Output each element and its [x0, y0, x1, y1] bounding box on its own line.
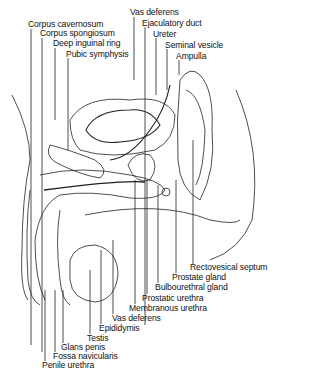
- label-prostatic-urethra: Prostatic urethra: [142, 294, 203, 303]
- label-vas-deferens-top: Vas deferens: [130, 8, 179, 17]
- label-corpus-spongiosum: Corpus spongiosum: [40, 29, 115, 38]
- label-pubic-symphysis: Pubic symphysis: [66, 50, 129, 59]
- label-ejaculatory-duct: Ejaculatory duct: [142, 19, 202, 28]
- label-penile-urethra: Penile urethra: [42, 361, 94, 368]
- label-seminal-vesicle: Seminal vesicle: [165, 41, 223, 50]
- label-deep-inguinal-ring: Deep inguinal ring: [53, 39, 120, 48]
- label-bulbourethral-gland: Bulbourethral gland: [155, 283, 228, 292]
- label-rectovesical-septum: Rectovesical septum: [190, 263, 267, 272]
- label-membranous-urethra: Membranous urethra: [129, 304, 207, 313]
- label-vas-deferens-bottom: Vas deferens: [112, 314, 161, 323]
- label-ureter: Ureter: [153, 30, 176, 39]
- label-prostate-gland: Prostate gland: [172, 273, 226, 282]
- label-ampulla: Ampulla: [176, 52, 206, 61]
- label-epididymis: Epididymis: [99, 324, 140, 333]
